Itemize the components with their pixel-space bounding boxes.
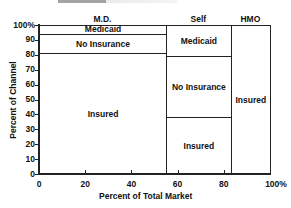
y-tick-mark [35,85,39,86]
segment-md-no-insurance: No Insurance [39,34,167,54]
x-tick-label: 60 [173,179,182,189]
y-tick-label: 10 [26,155,35,164]
y-tick-mark [35,55,39,56]
column-title-self: Self [191,14,207,24]
x-tick-mark [131,170,132,174]
y-tick-label: 50 [26,95,35,104]
x-axis-title: Percent of Total Market [99,191,192,201]
y-tick-label: 40 [26,110,35,119]
x-tick-mark [85,170,86,174]
y-axis-title: Percent of Channel [8,60,18,140]
x-tick-label: 20 [80,179,89,189]
x-tick-mark [178,170,179,174]
y-tick-label: 70 [26,65,35,74]
y-tick-mark [35,129,39,130]
y-tick-mark [35,25,39,26]
y-tick-mark [35,144,39,145]
y-tick-mark [35,159,39,160]
segment-md-medicaid: Medicaid [39,25,167,35]
column-title-md: M.D. [94,14,112,24]
column-title-hmo: HMO [240,14,260,24]
x-axis-line [38,173,271,175]
mosaic-plot-area: InsuredNo InsuranceMedicaidInsuredNo Ins… [39,25,270,174]
segment-self-insured: Insured [166,117,232,175]
y-tick-label: 80 [26,50,35,59]
segment-hmo-insured: Insured [231,25,271,175]
x-tick-label: 100% [265,179,287,189]
cropped-title-fragment [58,0,178,3]
x-tick-mark [39,170,40,174]
x-tick-label: 80 [219,179,228,189]
y-tick-mark [35,174,39,175]
y-tick-label: 90 [26,35,35,44]
segment-self-medicaid: Medicaid [166,25,232,57]
x-tick-label: 40 [127,179,136,189]
x-tick-label: 0 [37,179,42,189]
y-tick-label: 100% [13,21,35,30]
y-tick-mark [35,114,39,115]
y-tick-mark [35,100,39,101]
x-tick-mark [270,170,271,174]
y-tick-label: 0 [30,170,35,179]
y-tick-mark [35,40,39,41]
y-tick-mark [35,70,39,71]
x-tick-mark [224,170,225,174]
segment-self-no-insurance: No Insurance [166,56,232,118]
y-tick-label: 20 [26,140,35,149]
segment-md-insured: Insured [39,53,167,175]
y-tick-label: 30 [26,125,35,134]
y-tick-label: 60 [26,80,35,89]
